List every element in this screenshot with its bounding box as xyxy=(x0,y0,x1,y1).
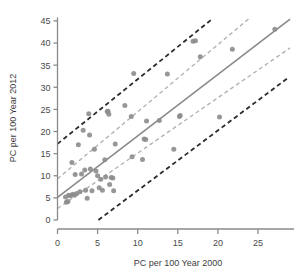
data-point xyxy=(100,188,105,193)
data-point xyxy=(85,196,90,201)
data-point xyxy=(79,171,84,176)
x-tick-label: 15 xyxy=(173,238,183,248)
y-tick-label: 25 xyxy=(40,105,50,115)
x-tick-label: 25 xyxy=(253,238,263,248)
x-tick-label: 10 xyxy=(133,238,143,248)
data-point xyxy=(110,175,115,180)
data-point xyxy=(111,188,116,193)
inner-confidence-upper xyxy=(58,18,250,179)
outer-prediction-upper xyxy=(58,18,214,144)
data-point xyxy=(87,133,92,138)
data-point xyxy=(83,188,88,193)
data-point xyxy=(230,47,235,52)
y-tick-label: 45 xyxy=(40,16,50,26)
data-point xyxy=(76,142,81,147)
data-point xyxy=(93,168,98,173)
data-point xyxy=(198,54,203,59)
data-point xyxy=(88,167,93,172)
data-point xyxy=(81,128,86,133)
y-axis-title: PC per 100 Year 2012 xyxy=(8,74,18,163)
data-point xyxy=(73,172,78,177)
data-point xyxy=(165,72,170,77)
data-point xyxy=(65,199,70,204)
data-point xyxy=(131,71,136,76)
data-point xyxy=(130,154,135,159)
data-point xyxy=(157,118,162,123)
data-point xyxy=(129,114,134,119)
data-point xyxy=(102,157,107,162)
x-tick-label: 5 xyxy=(95,238,100,248)
scatter-chart: 051015202530354045 0510152025 PC per 100… xyxy=(0,0,301,273)
data-point xyxy=(122,103,127,108)
y-tick-label: 40 xyxy=(40,38,50,48)
outer-prediction-lower xyxy=(98,78,288,220)
y-axis-ticks: 051015202530354045 xyxy=(40,16,57,225)
data-point xyxy=(171,147,176,152)
data-point xyxy=(193,38,198,43)
data-point xyxy=(217,114,222,119)
data-point xyxy=(272,27,277,32)
data-point xyxy=(103,175,108,180)
y-tick-label: 10 xyxy=(40,171,50,181)
x-axis-ticks: 0510152025 xyxy=(55,229,263,248)
y-tick-label: 20 xyxy=(40,127,50,137)
y-tick-label: 0 xyxy=(45,215,50,225)
regression-line xyxy=(58,19,291,197)
y-tick-label: 30 xyxy=(40,83,50,93)
y-axis: 051015202530354045 xyxy=(40,16,57,225)
data-point xyxy=(69,160,74,165)
y-tick-label: 35 xyxy=(40,61,50,71)
y-tick-label: 5 xyxy=(45,193,50,203)
data-point xyxy=(82,168,87,173)
x-tick-label: 0 xyxy=(55,238,60,248)
inner-confidence-lower xyxy=(58,48,291,209)
data-point xyxy=(106,112,111,117)
x-tick-label: 20 xyxy=(213,238,223,248)
data-point xyxy=(89,188,94,193)
y-tick-label: 15 xyxy=(40,149,50,159)
data-point xyxy=(86,111,91,116)
data-point xyxy=(140,157,145,162)
data-point xyxy=(178,113,183,118)
data-point xyxy=(98,177,103,182)
data-point xyxy=(113,141,118,146)
chart-canvas: 051015202530354045 0510152025 PC per 100… xyxy=(0,0,301,273)
x-axis-title: PC per 100 Year 2000 xyxy=(134,258,223,268)
x-axis: 0510152025 xyxy=(55,229,294,248)
data-point xyxy=(107,182,112,187)
data-point xyxy=(77,189,82,194)
data-point xyxy=(92,147,97,152)
data-point xyxy=(144,118,149,123)
data-point xyxy=(143,137,148,142)
